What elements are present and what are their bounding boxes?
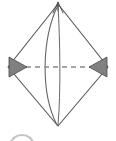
geometric-diagram	[0, 0, 116, 141]
partial-circle-lower-left-icon	[11, 135, 33, 141]
figure-container	[0, 0, 116, 141]
